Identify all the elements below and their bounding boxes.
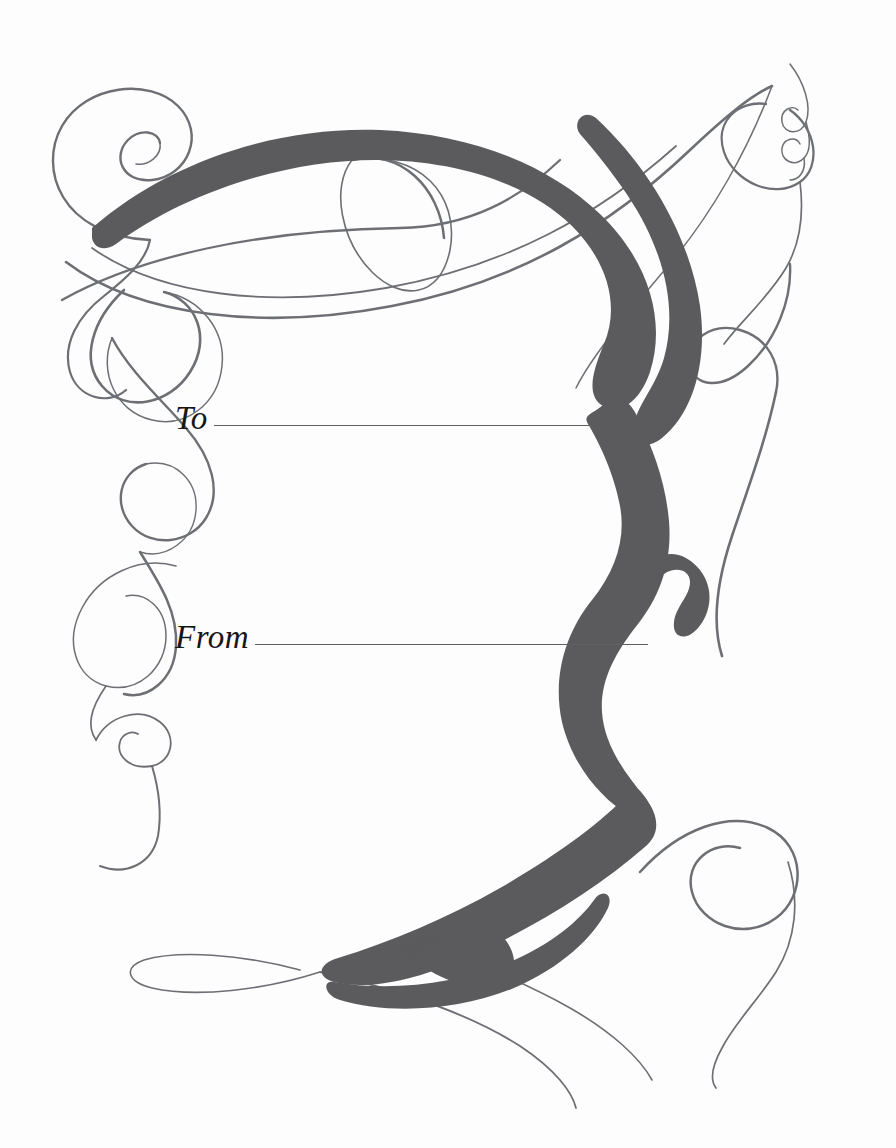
loop-bottom-right (640, 821, 798, 929)
loop-left-lower-pear (74, 563, 176, 687)
field-from-label: From (175, 621, 249, 654)
field-from[interactable]: From (175, 621, 648, 654)
loop-left-lower-tail (91, 686, 106, 740)
field-to-rule[interactable] (214, 425, 592, 426)
loop-bottom-right-tail (713, 862, 795, 1088)
curl-left-bottom-tail (100, 766, 160, 869)
ribbon-top-arch (92, 130, 656, 409)
loop-right-mid-tail (717, 392, 776, 656)
field-to-label: To (175, 402, 208, 435)
loop-left-mid-c (112, 338, 214, 540)
field-from-rule[interactable] (255, 644, 648, 645)
calligraphic-flourish-artwork (0, 0, 896, 1148)
field-to[interactable]: To (175, 402, 592, 435)
curl-left-bottom-e (96, 714, 171, 766)
ellipse-bottom-left (130, 955, 320, 993)
curl-right-top-a (782, 64, 808, 132)
ribbon-main (92, 115, 710, 1009)
sweep-line-crossing (62, 160, 560, 300)
curl-right-top-c (790, 158, 804, 180)
ribbon-trunk-s-curve (559, 398, 670, 819)
spiral-upper-left-inner (136, 143, 160, 164)
gift-tag-page: To From (0, 0, 896, 1148)
